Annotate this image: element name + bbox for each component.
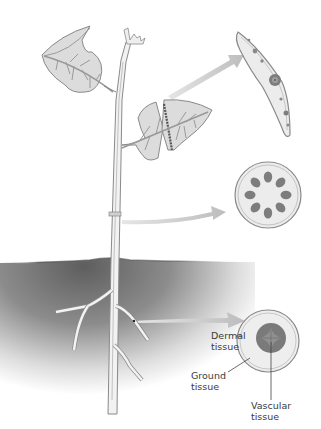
plant-tissue-diagram: Dermal tissue Ground tissue Vascular tis… <box>0 0 321 429</box>
leaf-cross-section <box>236 32 290 136</box>
label-vascular-line1: Vascular <box>251 400 291 411</box>
leaf-cut <box>122 100 212 160</box>
label-dermal-line2: tissue <box>211 341 246 352</box>
label-vascular-tissue: Vascular tissue <box>251 400 291 422</box>
leaf-upper-left <box>42 26 116 92</box>
label-dermal-line1: Dermal <box>211 330 246 341</box>
label-ground-line2: tissue <box>191 381 226 392</box>
arrow-leaf-to-section <box>168 55 244 100</box>
root-cross-section <box>237 310 299 372</box>
stem-cross-section <box>235 162 301 228</box>
label-ground-tissue: Ground tissue <box>191 370 226 392</box>
label-dermal-tissue: Dermal tissue <box>211 330 246 352</box>
arrow-stem-to-section <box>122 206 226 224</box>
label-ground-line1: Ground <box>191 370 226 381</box>
label-vascular-line2: tissue <box>251 411 291 422</box>
